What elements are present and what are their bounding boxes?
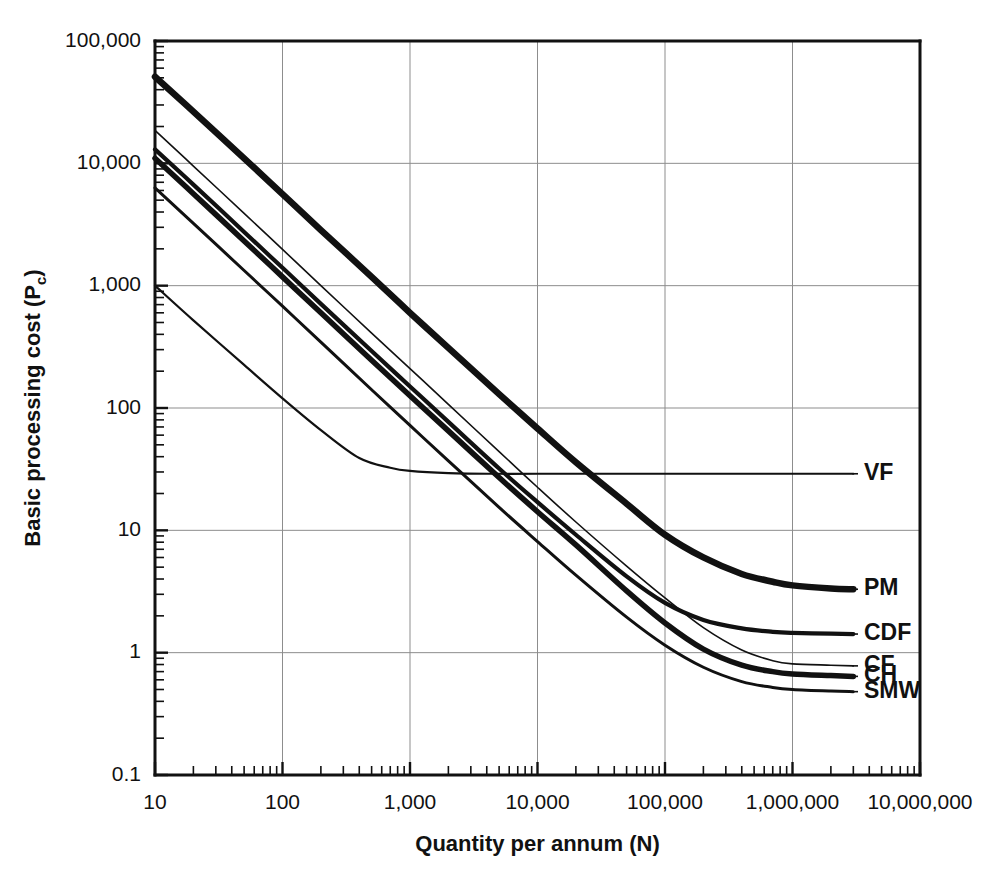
tick-labels-layer: 101001,00010,000100,0001,000,00010,000,0… [65, 28, 972, 813]
y-axis-title: Basic processing cost (Pc) [20, 269, 49, 546]
series-label-pm: PM [864, 574, 899, 600]
series-label-vf: VF [864, 459, 893, 485]
x-tick-label: 100,000 [627, 790, 703, 813]
log-log-line-chart: PMVFCDFCFCHSMW 101001,00010,000100,0001,… [0, 0, 992, 890]
x-tick-label: 10,000,000 [867, 790, 972, 813]
chart-container: PMVFCDFCFCHSMW 101001,00010,000100,0001,… [0, 0, 992, 890]
y-tick-label: 10,000 [77, 150, 141, 173]
x-tick-label: 10,000 [505, 790, 569, 813]
series-curves-layer [155, 77, 853, 692]
series-label-cdf: CDF [864, 619, 911, 645]
y-tick-label: 1 [129, 639, 141, 662]
x-axis-title: Quantity per annum (N) [415, 831, 659, 856]
series-labels-layer: PMVFCDFCFCHSMW [852, 459, 920, 703]
y-tick-label: 10 [118, 517, 141, 540]
y-axis-title-main: Basic processing cost (P [20, 285, 45, 547]
x-tick-label: 1,000,000 [746, 790, 839, 813]
x-tick-label: 1,000 [384, 790, 437, 813]
x-tick-label: 100 [265, 790, 300, 813]
series-curve-smw [155, 188, 853, 692]
y-tick-label: 0.1 [112, 762, 141, 785]
y-tick-label: 100,000 [65, 28, 141, 51]
x-tick-label: 10 [143, 790, 166, 813]
y-axis-title-tail: ) [20, 269, 45, 276]
series-curve-ch [155, 158, 853, 676]
series-curve-vf [155, 286, 853, 474]
series-label-smw: SMW [864, 677, 921, 703]
series-curve-cdf [155, 149, 853, 634]
y-tick-label: 100 [106, 395, 141, 418]
y-tick-label: 1,000 [88, 272, 141, 295]
y-axis-title-subscript: c [32, 277, 49, 285]
